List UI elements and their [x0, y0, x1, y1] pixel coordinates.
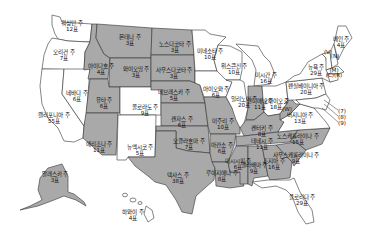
electoral-votes: 6표 — [66, 96, 88, 102]
electoral-votes: 10표 — [221, 69, 248, 75]
state-label-nd: 노스다코타 주3표 — [159, 41, 191, 54]
state-label-wa: 워싱턴 주12표 — [61, 20, 83, 33]
state-label-va: 버지니아 주13표 — [287, 112, 314, 125]
electoral-votes: 6표 — [211, 148, 233, 154]
state-label-wi: 위스콘신 주10표 — [221, 63, 248, 76]
state-label-ar: 아칸소 주6표 — [211, 142, 233, 155]
electoral-votes: 3표 — [42, 177, 69, 183]
electoral-votes: 29표 — [289, 200, 316, 206]
electoral-votes: 6표 — [203, 92, 230, 98]
electoral-votes: 5표 — [158, 95, 190, 101]
state-label-co: 콜로라도 주9표 — [132, 104, 159, 117]
state-label-id: 아이다호 주4표 — [88, 63, 115, 76]
electoral-votes: 6표 — [96, 103, 113, 109]
electoral-votes: 20표 — [288, 89, 325, 95]
electoral-votes: 5표 — [127, 150, 154, 156]
state-label-ut: 유타 주6표 — [96, 97, 113, 110]
state-label-ct_ri: (C)(R) — [326, 72, 343, 78]
electoral-votes: 29표 — [308, 70, 325, 76]
state-label-wv: (W) — [282, 106, 292, 112]
state-label-sc: 사우스캐롤라이나 주9표 — [273, 152, 320, 165]
state-name: (N) — [331, 53, 340, 59]
electoral-votes: 8표 — [206, 176, 238, 182]
electoral-votes: 15표 — [277, 139, 319, 145]
state-label-tn: 테네시 주11표 — [251, 138, 273, 151]
state-label-ne: 네브래스카 주5표 — [158, 89, 190, 102]
state-label-pa: 펜실베이니아 주20표 — [288, 83, 325, 96]
electoral-votes: 11표 — [251, 144, 273, 150]
electoral-votes: 16표 — [255, 78, 277, 84]
electoral-votes: 3표 — [123, 72, 150, 78]
state-name: (C)(R) — [326, 72, 343, 78]
state-label-ny: 뉴욕 주29표 — [308, 64, 325, 77]
electoral-votes: 10표 — [197, 54, 224, 60]
state-label-hi: 하와이 주4표 — [122, 209, 144, 222]
state-label-ak: 알래스카 주3표 — [42, 171, 69, 184]
state-label-nm: 뉴멕시코 주5표 — [127, 144, 154, 157]
electoral-votes: 4표 — [333, 42, 350, 48]
state-label-nv: 네바다 주6표 — [66, 90, 88, 103]
electoral-votes: 4표 — [122, 215, 144, 221]
electoral-votes: 6표 — [171, 122, 193, 128]
state-label-ia: 아이오와 주6표 — [203, 86, 230, 99]
electoral-votes: 8표 — [251, 131, 273, 137]
state-label-mt: 몬태나 주3표 — [119, 34, 141, 47]
electoral-votes: 3표 — [119, 40, 141, 46]
state-label-la: 루이지애나 주8표 — [206, 170, 238, 183]
state-label-az: 애리조나 주11표 — [86, 141, 113, 154]
state-name: (W) — [282, 106, 292, 112]
state-label-or: 오리건 주7표 — [53, 49, 75, 62]
state-label-sd: 사우스다코타 주3표 — [156, 67, 193, 80]
callout-label: (9) — [338, 120, 346, 126]
state-label-fl: 플로리다 주29표 — [289, 194, 316, 207]
electoral-votes: 55표 — [38, 118, 70, 124]
state-label-me: 메인 주4표 — [333, 36, 350, 49]
electoral-votes: 3표 — [159, 47, 191, 53]
state-label-nh: (N) — [331, 53, 340, 59]
state-label-mo: 미주리 주10표 — [212, 118, 234, 131]
electoral-votes: 7표 — [53, 55, 75, 61]
electoral-votes: 9표 — [132, 110, 159, 116]
state-label-ok: 오클라호마 주7표 — [173, 138, 205, 151]
state-label-ky: 켄터키 주8표 — [251, 125, 273, 138]
state-label-wy: 와이오밍 주3표 — [123, 66, 150, 79]
electoral-votes: 7표 — [173, 144, 205, 150]
electoral-votes: 9표 — [273, 158, 320, 164]
state-label-mi: 미시간 주16표 — [255, 72, 277, 85]
electoral-votes: 38표 — [167, 178, 189, 184]
state-label-ks: 캔자스 주6표 — [171, 116, 193, 129]
electoral-votes: 12표 — [61, 26, 83, 32]
electoral-votes: 4표 — [88, 69, 115, 75]
state-label-mn: 미네소타 주10표 — [197, 48, 224, 61]
electoral-votes: 10표 — [212, 124, 234, 130]
state-label-nc: 노스캐롤라이나 주15표 — [277, 133, 319, 146]
electoral-votes: 13표 — [287, 118, 314, 124]
state-label-ca: 캘리포니아 주55표 — [38, 112, 70, 125]
electoral-votes: 11표 — [86, 147, 113, 153]
electoral-votes: 3표 — [156, 73, 193, 79]
electoral-votes: 16표 — [263, 164, 285, 170]
state-label-tx: 텍사스 주38표 — [167, 172, 189, 185]
